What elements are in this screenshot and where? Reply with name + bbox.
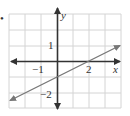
- tick-label-y-1: 1: [48, 39, 54, 51]
- tick-label-y-neg2: −2: [40, 88, 52, 100]
- coordinate-graph: • y x 1 −1 2 −2: [0, 0, 130, 116]
- x-axis-label: x: [112, 63, 118, 75]
- tick-label-x-2: 2: [86, 63, 92, 75]
- bullet-marker: •: [0, 12, 4, 24]
- tick-label-x-neg1: −1: [32, 63, 44, 75]
- graph-svg: • y x 1 −1 2 −2: [0, 0, 130, 116]
- y-axis-label: y: [60, 9, 66, 21]
